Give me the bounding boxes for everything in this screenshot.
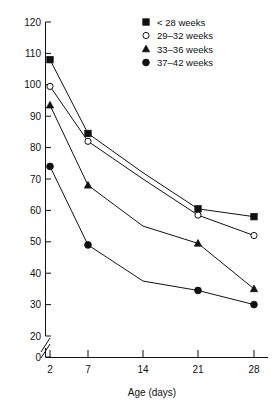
data-point-s1-x28	[251, 213, 257, 219]
data-point-s2-x21	[195, 212, 201, 218]
y-tick-label-110: 110	[25, 48, 41, 59]
legend-label-3: 33–36 weeks	[157, 44, 213, 55]
legend-item-4[interactable]: 37–42 weeks	[143, 57, 214, 68]
series-line-3	[50, 105, 254, 289]
chart-legend: < 28 weeks29–32 weeks33–36 weeks37–42 we…	[142, 17, 213, 69]
y-tick-label-120: 120	[24, 17, 41, 28]
chart-figure: 120 110 100 90 80 70 60 50 40 30 20 0 2 …	[0, 0, 277, 410]
data-point-s1-x2	[47, 56, 53, 62]
data-point-s1-x21	[195, 206, 201, 212]
line-chart-canvas: 120 110 100 90 80 70 60 50 40 30 20 0 2 …	[0, 0, 277, 410]
data-point-s3-x7	[84, 181, 91, 188]
data-point-s3-x28	[250, 285, 257, 292]
x-axis	[46, 350, 269, 358]
series-line-4	[50, 166, 254, 304]
data-point-s4-x28	[251, 301, 258, 308]
x-axis-title: Age (days)	[128, 387, 176, 398]
y-tick-label-70: 70	[30, 174, 42, 185]
data-point-s4-x7	[85, 242, 92, 249]
y-axis	[41, 22, 50, 358]
legend-marker-2	[143, 32, 149, 38]
y-tick-label-20: 20	[30, 331, 42, 342]
x-tick-label-2: 2	[47, 364, 53, 375]
series-3	[46, 101, 257, 291]
series-2	[47, 83, 257, 238]
y-tick-label-40: 40	[30, 268, 42, 279]
x-tick-label-14: 14	[137, 364, 149, 375]
y-tick-label-80: 80	[30, 142, 42, 153]
y-tick-labels: 120 110 100 90 80 70 60 50 40 30 20 0	[24, 17, 41, 363]
legend-item-1[interactable]: < 28 weeks	[143, 17, 206, 28]
data-point-s4-x2	[47, 163, 54, 170]
y-tick-label-30: 30	[30, 299, 42, 310]
data-point-s2-x2	[47, 83, 53, 89]
y-tick-label-0: 0	[35, 352, 41, 363]
data-point-s2-x28	[251, 232, 257, 238]
x-tick-label-21: 21	[192, 364, 204, 375]
legend-label-4: 37–42 weeks	[157, 57, 213, 68]
data-point-s4-x21	[195, 287, 202, 294]
y-tick-label-50: 50	[30, 236, 42, 247]
data-point-s1-x7	[85, 130, 91, 136]
legend-marker-1	[143, 19, 149, 25]
data-point-s2-x7	[85, 138, 91, 144]
legend-label-2: 29–32 weeks	[157, 30, 213, 41]
legend-label-1: < 28 weeks	[157, 17, 206, 28]
legend-marker-4	[143, 59, 150, 66]
x-tick-labels: 2 7 14 21 28	[47, 364, 260, 375]
legend-item-3[interactable]: 33–36 weeks	[142, 44, 213, 55]
x-tick-label-7: 7	[85, 364, 91, 375]
series-1	[47, 56, 257, 219]
legend-marker-3	[142, 45, 149, 52]
y-tick-label-90: 90	[30, 111, 42, 122]
y-tick-label-100: 100	[24, 79, 41, 90]
y-tick-marks	[46, 22, 52, 357]
legend-item-2[interactable]: 29–32 weeks	[143, 30, 213, 41]
series-line-1	[50, 60, 254, 217]
data-point-s3-x2	[46, 101, 53, 108]
series-line-2	[50, 86, 254, 235]
y-tick-label-60: 60	[30, 205, 42, 216]
x-tick-label-28: 28	[248, 364, 260, 375]
series-layer	[46, 56, 257, 308]
